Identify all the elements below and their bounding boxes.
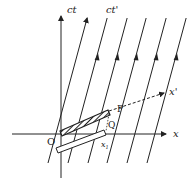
spacetime-diagram: ct ct' x x' O P Q x1 — [0, 0, 188, 186]
p-label: P — [117, 104, 123, 114]
worldline — [88, 18, 127, 163]
x1-sub: 1 — [106, 144, 109, 150]
x-label: x — [173, 128, 179, 139]
worldlines — [48, 18, 186, 163]
worldline — [107, 18, 146, 163]
x-prime-label: x' — [169, 86, 177, 97]
diagram-canvas: ct ct' x x' O P Q x1 — [0, 0, 188, 186]
x1-label: x1 — [101, 140, 109, 150]
ct-prime-label: ct' — [106, 4, 118, 15]
worldline — [147, 18, 186, 163]
ct-label: ct — [67, 4, 78, 15]
origin-label: O — [47, 136, 55, 147]
worldline — [127, 18, 166, 163]
q-label: Q — [108, 120, 115, 130]
